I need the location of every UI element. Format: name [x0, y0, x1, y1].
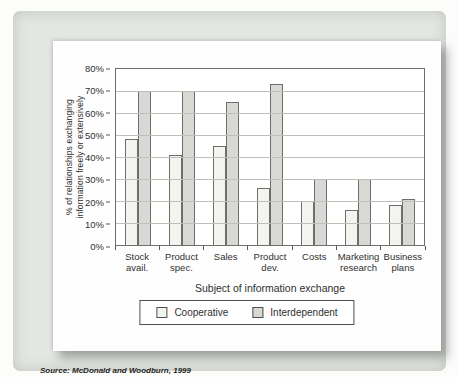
legend-item-interdependent: Interdependent [252, 307, 337, 318]
category-label: Marketing research [336, 252, 380, 274]
bar-interdependent [182, 91, 195, 245]
category-label: Product spec. [159, 252, 203, 274]
legend-item-cooperative: Cooperative [156, 307, 228, 318]
y-tick-label: 40% [85, 152, 104, 163]
x-tick-mark [292, 246, 293, 250]
legend-label-cooperative: Cooperative [174, 307, 228, 318]
bar-cooperative [389, 205, 402, 245]
category-label: Costs [292, 252, 336, 274]
bar-interdependent [358, 179, 371, 245]
bar-cooperative [345, 210, 358, 245]
bar-interdependent [314, 179, 327, 245]
bar-cooperative [213, 146, 226, 245]
y-axis-tick-labels: 80%70%60%50%40%30%20%10%0% [71, 68, 111, 246]
x-tick-mark [380, 246, 381, 250]
x-axis-title: Subject of information exchange [115, 282, 425, 294]
gridline [116, 157, 424, 158]
plot-area [115, 68, 425, 246]
category-label: Stock avail. [115, 252, 159, 274]
y-tick-label: 80% [85, 63, 104, 74]
gridline [116, 113, 424, 114]
bar-cooperative [257, 188, 270, 245]
category-label: Sales [204, 252, 248, 274]
x-tick-mark [159, 246, 160, 250]
y-tick-label: 50% [85, 129, 104, 140]
bar-interdependent [270, 84, 283, 245]
x-tick-strip [115, 246, 425, 250]
figure-card: % of relationships exchanging informatio… [53, 41, 441, 351]
category-label: Product dev. [248, 252, 292, 274]
y-tick-label: 20% [85, 196, 104, 207]
x-tick-mark [336, 246, 337, 250]
bar-interdependent [138, 91, 151, 245]
legend-box: Cooperative Interdependent [139, 300, 354, 325]
gridline [116, 135, 424, 136]
x-tick-mark [247, 246, 248, 250]
y-tick-label: 0% [90, 241, 104, 252]
gridline [116, 179, 424, 180]
bar-cooperative [125, 139, 138, 245]
page-panel: % of relationships exchanging informatio… [13, 11, 446, 371]
interdependent-swatch-icon [252, 307, 263, 318]
gridline [116, 223, 424, 224]
y-tick-label: 10% [85, 218, 104, 229]
gridline [116, 201, 424, 202]
x-tick-mark [203, 246, 204, 250]
y-tick-label: 60% [85, 107, 104, 118]
category-labels-row: Stock avail.Product spec.SalesProduct de… [115, 252, 425, 274]
y-tick-label: 30% [85, 174, 104, 185]
source-note: Source: McDonald and Woodburn, 1999 [40, 366, 191, 375]
legend-label-interdependent: Interdependent [270, 307, 337, 318]
gridline [116, 91, 424, 92]
y-tick-label: 70% [85, 85, 104, 96]
bar-interdependent [402, 199, 415, 245]
x-tick-mark [115, 246, 116, 250]
cooperative-swatch-icon [156, 307, 167, 318]
bar-cooperative [169, 155, 182, 245]
x-tick-mark [425, 246, 426, 250]
category-label: Business plans [381, 252, 425, 274]
